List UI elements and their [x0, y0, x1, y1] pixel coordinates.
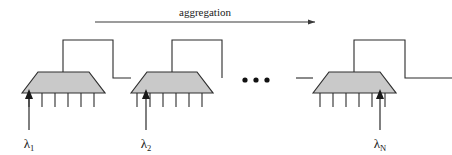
unit-1-lambda-subscript: 1 — [30, 143, 34, 153]
unit-1-group: λ1 — [22, 72, 105, 153]
unit-2-lambda-label: λ2 — [141, 136, 152, 153]
aggregation-diagram: aggregation λ1 — [0, 0, 452, 155]
unit-n-input-arrow — [376, 89, 384, 130]
ellipsis-dot — [242, 77, 247, 82]
unit-n-lambda-label: λN — [374, 136, 386, 153]
aggregation-group: aggregation — [95, 6, 315, 22]
unit-1-ticks — [29, 93, 94, 107]
unit-2-body — [131, 72, 213, 93]
unit-2-group: λ2 — [131, 72, 213, 153]
diagram-canvas: aggregation λ1 — [0, 0, 452, 155]
ellipsis-group — [242, 77, 269, 82]
aggregation-label: aggregation — [179, 6, 231, 18]
unit-1-body — [22, 72, 105, 93]
unit-1-input-arrow — [25, 89, 33, 130]
connections-group — [63, 40, 452, 78]
ellipsis-dot — [253, 77, 258, 82]
unit-n-group: λN — [313, 72, 396, 153]
unit-2-lambda-subscript: 2 — [147, 143, 151, 153]
unit-2-input-arrow — [142, 89, 150, 130]
unit-n-body — [313, 72, 396, 93]
unit-n-ticks — [320, 93, 385, 107]
ellipsis-dot — [264, 77, 269, 82]
unit-n-lambda-subscript: N — [380, 143, 386, 153]
unit-1-lambda-label: λ1 — [24, 136, 35, 153]
